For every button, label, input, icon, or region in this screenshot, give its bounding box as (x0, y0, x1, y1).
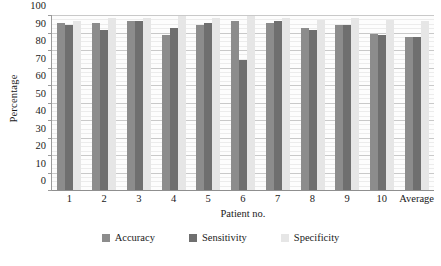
bar-accuracy (405, 37, 413, 191)
bar-sensitivity (274, 21, 282, 191)
y-tick-label: 30 (36, 122, 47, 133)
legend-item-specificity: Specificity (281, 232, 340, 243)
bar-accuracy (127, 21, 135, 191)
y-axis-title-text: Percentage (8, 74, 19, 122)
bar-specificity (247, 16, 255, 191)
bar-group (191, 16, 226, 191)
bar-specificity (421, 21, 429, 191)
bar-specificity (282, 18, 290, 191)
bar-group (121, 16, 156, 191)
x-axis-title: Patient no. (52, 208, 434, 219)
x-tick-label: 5 (191, 193, 226, 209)
x-tick-label: 10 (364, 193, 399, 209)
bar-specificity (351, 18, 359, 191)
bar-accuracy (301, 28, 309, 191)
chart-legend: AccuracySensitivitySpecificity (0, 232, 441, 243)
bar-accuracy (231, 21, 239, 191)
bar-group (365, 16, 400, 191)
x-tick-label: 9 (330, 193, 365, 209)
y-axis-title: Percentage (4, 0, 22, 196)
legend-item-sensitivity: Sensitivity (189, 232, 247, 243)
bar-chart-figure: Percentage 0102030405060708090100 123456… (0, 0, 441, 266)
y-tick-label: 80 (36, 35, 47, 46)
y-tick-label: 100 (30, 0, 46, 11)
bar-accuracy (57, 23, 65, 191)
bar-specificity (73, 21, 81, 191)
y-tick-mark (48, 138, 52, 139)
bar-specificity (143, 18, 151, 191)
y-tick-mark (48, 173, 52, 174)
bar-sensitivity (170, 28, 178, 191)
legend-item-accuracy: Accuracy (102, 232, 155, 243)
y-tick-label: 70 (36, 52, 47, 63)
bar-sensitivity (100, 30, 108, 191)
x-tick-label: 3 (121, 193, 156, 209)
x-tick-label: 7 (260, 193, 295, 209)
bar-specificity (108, 18, 116, 191)
y-tick-mark (48, 68, 52, 69)
bar-sensitivity (239, 60, 247, 191)
legend-label: Specificity (294, 232, 340, 243)
bar-accuracy (162, 35, 170, 191)
bar-group (226, 16, 261, 191)
y-tick-label: 90 (36, 17, 47, 28)
y-tick-label: 10 (36, 157, 47, 168)
x-axis-line (51, 190, 434, 191)
y-tick-label: 20 (36, 140, 47, 151)
x-tick-label: 1 (52, 193, 87, 209)
legend-label: Accuracy (115, 232, 155, 243)
bar-accuracy (92, 23, 100, 191)
legend-label: Sensitivity (202, 232, 247, 243)
y-tick-mark (48, 15, 52, 16)
bar-sensitivity (65, 25, 73, 191)
bar-group (87, 16, 122, 191)
x-tick-label: 2 (87, 193, 122, 209)
bar-group (260, 16, 295, 191)
y-tick-mark (48, 190, 52, 191)
bar-sensitivity (309, 30, 317, 191)
legend-swatch-icon (189, 234, 197, 242)
bar-group (52, 16, 87, 191)
legend-swatch-icon (281, 234, 289, 242)
y-tick-mark (48, 155, 52, 156)
y-tick-mark (48, 103, 52, 104)
x-tick-label: 8 (295, 193, 330, 209)
bar-specificity (178, 16, 186, 191)
bar-group (295, 16, 330, 191)
x-tick-label: 4 (156, 193, 191, 209)
bar-sensitivity (378, 35, 386, 191)
x-tick-label: Average (399, 193, 434, 209)
bar-specificity (317, 20, 325, 192)
y-tick-label: 50 (36, 87, 47, 98)
y-tick-mark (48, 33, 52, 34)
x-tick-label: 6 (226, 193, 261, 209)
bar-accuracy (266, 23, 274, 191)
legend-swatch-icon (102, 234, 110, 242)
y-tick-label: 40 (36, 105, 47, 116)
bar-sensitivity (343, 25, 351, 191)
bar-accuracy (196, 25, 204, 191)
bar-sensitivity (413, 37, 421, 191)
y-tick-mark (48, 120, 52, 121)
bar-sensitivity (135, 21, 143, 191)
y-tick-label: 0 (41, 175, 46, 186)
bar-sensitivity (204, 23, 212, 191)
x-tick-labels: 12345678910Average (52, 193, 434, 209)
bar-accuracy (370, 34, 378, 192)
bar-group (156, 16, 191, 191)
bar-group (399, 16, 434, 191)
bar-group (330, 16, 365, 191)
bar-specificity (212, 18, 220, 191)
y-tick-label: 60 (36, 70, 47, 81)
y-tick-mark (48, 85, 52, 86)
bar-specificity (386, 20, 394, 192)
bar-accuracy (335, 25, 343, 191)
plot-area: 0102030405060708090100 (52, 16, 434, 191)
bar-groups (52, 16, 434, 191)
y-tick-mark (48, 50, 52, 51)
